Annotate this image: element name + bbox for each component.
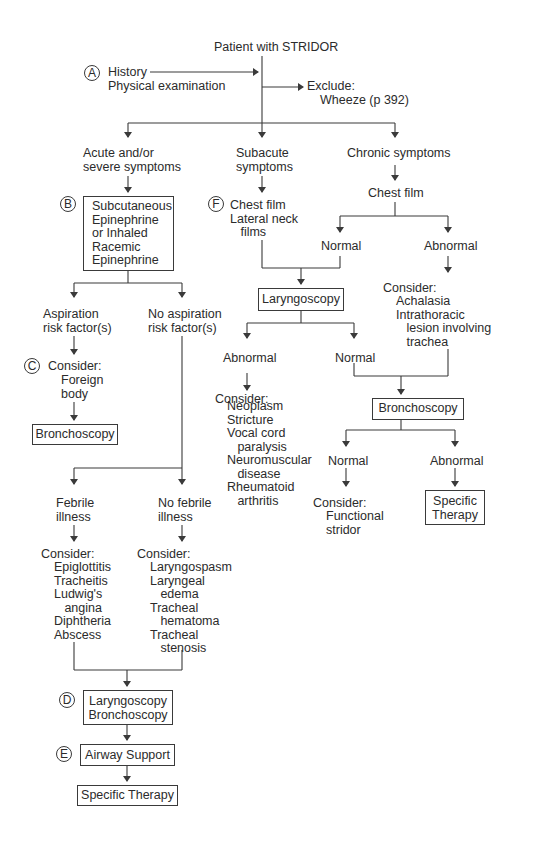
laryngoscopy-bronchoscopy-box: Laryngoscopy Bronchoscopy	[83, 690, 173, 725]
step-marker-c: C	[24, 358, 40, 374]
exclude-item: Wheeze (p 392)	[320, 94, 409, 108]
no-aspiration-risk-node: No aspiration risk factor(s)	[148, 308, 222, 335]
step-marker-f: F	[208, 196, 224, 212]
specific-therapy-box-right: Specific Therapy	[425, 490, 485, 525]
step-marker-a: A	[84, 65, 100, 81]
step-marker-b: B	[60, 196, 76, 212]
step-marker-d: D	[59, 692, 75, 708]
laryngoscopy-normal-node: Normal	[335, 352, 375, 366]
acute-symptoms-node: Acute and/or severe symptoms	[83, 147, 181, 174]
chronic-symptoms-node: Chronic symptoms	[347, 147, 451, 161]
febrile-illness-node: Febrile illness	[56, 497, 94, 524]
subacute-symptoms-node: Subacute symptoms	[236, 147, 293, 174]
foreign-body-items: Foreign body	[61, 374, 103, 401]
laryngoscopy-box: Laryngoscopy	[258, 288, 344, 311]
functional-stridor-items: Functional stridor	[326, 510, 384, 537]
bronchoscopy-normal-node: Normal	[328, 455, 368, 469]
chest-film-consider-items: Achalasia Intrathoracic lesion involving…	[396, 295, 491, 349]
chest-film-normal-node: Normal	[321, 240, 361, 254]
consider-foreign-body-label: Consider:	[48, 360, 102, 374]
chest-film-node: Chest film	[368, 187, 424, 201]
no-febrile-consider-items: Laryngospasm Laryngeal edema Tracheal he…	[150, 561, 232, 656]
laryngoscopy-abnormal-node: Abnormal	[223, 352, 277, 366]
aspiration-risk-node: Aspiration risk factor(s)	[43, 308, 112, 335]
bronchoscopy-box-right: Bronchoscopy	[372, 398, 464, 420]
history-physical-node: History Physical examination	[108, 66, 225, 93]
step-marker-e: E	[56, 746, 72, 762]
title-node: Patient with STRIDOR	[214, 41, 338, 55]
no-febrile-illness-node: No febrile illness	[158, 497, 212, 524]
bronchoscopy-box-left: Bronchoscopy	[32, 424, 118, 445]
exclude-label: Exclude:	[307, 80, 355, 94]
imaging-node: Chest film Lateral neck films	[230, 199, 298, 240]
epinephrine-box: Subcutaneous Epinephrine or Inhaled Race…	[83, 196, 174, 271]
chest-film-abnormal-node: Abnormal	[424, 240, 478, 254]
airway-support-box: Airway Support	[80, 744, 175, 766]
bronchoscopy-abnormal-node: Abnormal	[430, 455, 484, 469]
laryngoscopy-consider-items: Neoplasm Stricture Vocal cord paralysis …	[227, 400, 312, 508]
febrile-consider-items: Epiglottitis Tracheitis Ludwig's angina …	[54, 561, 111, 642]
specific-therapy-box-final: Specific Therapy	[77, 785, 178, 806]
